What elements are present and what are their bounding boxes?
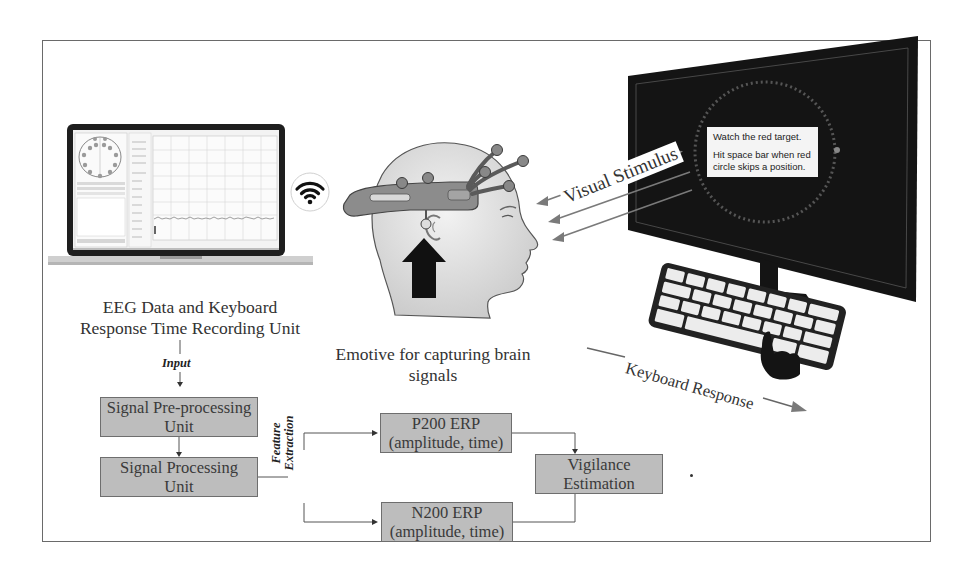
wifi-icon (290, 172, 330, 212)
p200-line1: P200 ERP (412, 414, 480, 433)
input-label: Input (162, 356, 191, 371)
instruction-line1: Watch the red target. (713, 131, 812, 143)
processing-line1: Signal Processing (120, 458, 238, 477)
p200-line2: (amplitude, time) (389, 433, 504, 452)
n200-erp-box: N200 ERP (amplitude, time) (381, 502, 513, 542)
stray-dot (690, 474, 693, 477)
preprocessing-line1: Signal Pre-processing (107, 398, 251, 417)
instruction-line3: circle skips a position. (713, 161, 812, 173)
stimulus-instruction-panel: Watch the red target. Hit space bar when… (707, 127, 818, 177)
signal-processing-unit-box: Signal Processing Unit (100, 457, 258, 497)
n200-line2: (amplitude, time) (390, 522, 505, 541)
recording-unit-caption-line1: EEG Data and Keyboard (70, 297, 310, 318)
p200-erp-box: P200 ERP (amplitude, time) (380, 413, 512, 453)
recording-unit-caption: EEG Data and Keyboard Response Time Reco… (70, 297, 310, 339)
feature-extraction-label: Feature Extraction (270, 408, 296, 478)
headset-caption-line1: Emotive for capturing brain (328, 344, 538, 365)
preprocessing-to-processing-arrow (174, 437, 184, 459)
n200-line1: N200 ERP (411, 503, 482, 522)
head-with-eeg-headset-illustration (340, 120, 540, 320)
preprocessing-line2: Unit (164, 417, 193, 436)
recording-unit-caption-line2: Response Time Recording Unit (70, 318, 310, 339)
vigilance-line1: Vigilance (567, 455, 630, 474)
headset-caption-line2: signals (328, 365, 538, 386)
vigilance-line2: Estimation (563, 474, 635, 493)
vigilance-estimation-box: Vigilance Estimation (535, 454, 663, 494)
laptop-screen (73, 130, 279, 250)
processing-line2: Unit (164, 477, 193, 496)
feature-label-line2: Extraction (283, 408, 296, 478)
signal-preprocessing-unit-box: Signal Pre-processing Unit (100, 397, 258, 437)
instruction-line2: Hit space bar when red (713, 149, 812, 161)
headset-caption: Emotive for capturing brain signals (328, 344, 538, 386)
